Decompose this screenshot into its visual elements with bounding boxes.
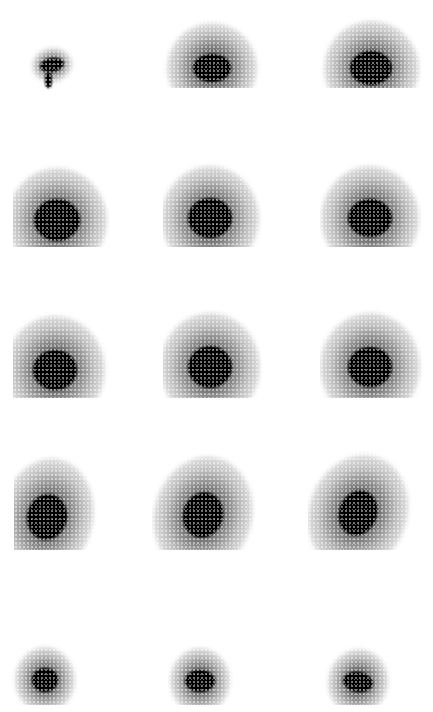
spot-tail [45, 72, 52, 88]
spot-core [34, 199, 80, 241]
spot-r1-c2 [160, 5, 270, 88]
spot-core [188, 198, 232, 238]
spot-r3-c3 [320, 300, 422, 398]
spot-r2-c2 [163, 150, 262, 247]
spot-r5-c3 [322, 640, 395, 705]
spot-r4-c2 [152, 445, 258, 550]
spot-grid-image [0, 0, 433, 712]
spot-r4-c3 [308, 445, 412, 550]
spot-core [348, 347, 392, 387]
spot-r5-c1 [12, 640, 80, 705]
spot-core [188, 346, 232, 388]
spot-r5-c2 [168, 640, 235, 705]
spot-core [33, 350, 77, 390]
spot-r3-c1 [13, 300, 110, 398]
spot-r1-c1 [20, 30, 90, 90]
spot-core [32, 668, 58, 692]
spot-core [348, 199, 392, 237]
spot-core [185, 670, 215, 692]
spot-r4-c1 [14, 445, 100, 550]
spot-r3-c2 [163, 300, 262, 398]
spot-r2-c1 [13, 150, 110, 247]
spot-r1-c3 [315, 5, 425, 88]
spot-core [193, 54, 231, 82]
spot-core [350, 51, 392, 85]
spot-r2-c3 [320, 150, 422, 247]
